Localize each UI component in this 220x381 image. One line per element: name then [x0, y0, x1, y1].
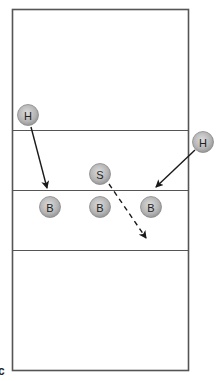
volleyball-court-diagram: H H S B B B c — [0, 0, 220, 381]
player-label: B — [96, 202, 103, 214]
movement-arrow-setter — [109, 184, 146, 238]
player-hitter-left: H — [18, 105, 39, 126]
player-label: H — [199, 137, 207, 149]
panel-label: c — [0, 364, 5, 378]
movement-arrow-left-hitter — [31, 127, 47, 188]
player-label: B — [46, 202, 53, 214]
player-label: B — [147, 202, 154, 214]
player-blocker-middle: B — [90, 197, 111, 218]
player-hitter-right: H — [193, 132, 214, 153]
player-blocker-left: B — [40, 197, 61, 218]
player-label: H — [24, 110, 32, 122]
player-label: S — [96, 169, 103, 181]
player-blocker-right: B — [141, 197, 162, 218]
player-setter: S — [90, 164, 111, 185]
